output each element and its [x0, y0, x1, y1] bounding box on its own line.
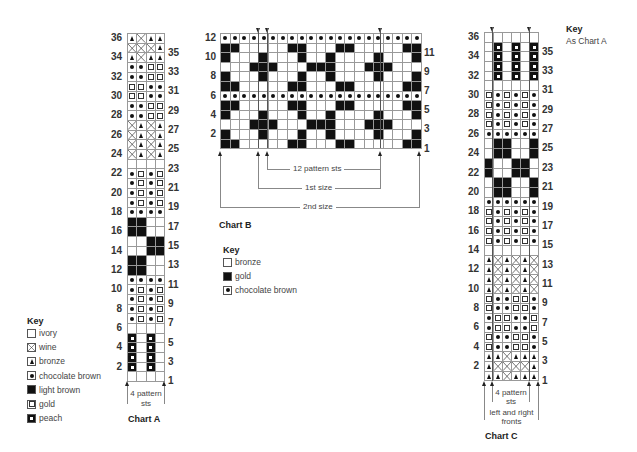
row-number: 35 [168, 48, 179, 58]
chart-cell [374, 120, 384, 130]
chart-cell [365, 34, 375, 44]
key-item-gold: gold [27, 399, 55, 409]
row-number: 14 [465, 245, 479, 255]
chart-cell [128, 305, 137, 315]
row-number: 24 [108, 149, 122, 159]
chart-cell [156, 169, 165, 179]
chart-cell [307, 44, 317, 54]
row-number: 34 [465, 51, 479, 61]
chart-cell [128, 237, 137, 247]
chart-cell [240, 53, 250, 63]
row-number: 7 [542, 318, 548, 328]
triangle-icon [523, 374, 527, 379]
chart-cell [530, 91, 539, 101]
chart-cell [156, 334, 165, 344]
cross-icon [494, 265, 502, 274]
chart-cell [336, 82, 346, 92]
cross-icon [530, 275, 538, 284]
chart-cell [503, 343, 512, 353]
chart-cell [326, 92, 336, 102]
chart-cell [317, 34, 327, 44]
cross-icon [530, 285, 538, 294]
chart-cell [128, 131, 137, 141]
chart-cell [336, 140, 346, 150]
chart-cell [530, 188, 539, 198]
row-number: 16 [465, 226, 479, 236]
chart-cell [393, 140, 403, 150]
chart-cell [393, 120, 403, 130]
chart-cell [503, 43, 512, 53]
chart-cell [530, 294, 539, 304]
dot-icon [532, 210, 536, 214]
triangle-icon [505, 257, 509, 262]
dot-icon [149, 181, 153, 185]
cross-icon [128, 44, 136, 53]
chart-cell [494, 314, 503, 324]
chart-cell [345, 140, 355, 150]
dot-icon [130, 297, 134, 301]
chart-cell [147, 285, 156, 295]
small-square-icon [148, 74, 154, 80]
chart-cell [530, 159, 539, 169]
chart-cell [269, 44, 279, 54]
dot-icon [523, 326, 527, 330]
chart-cell [298, 130, 308, 140]
chart-cell [128, 276, 137, 286]
dot-icon [496, 345, 500, 349]
triangle-icon [487, 287, 491, 292]
row-number: 24 [465, 148, 479, 158]
row-number: 17 [168, 222, 179, 232]
chart-cell [530, 314, 539, 324]
row-number: 9 [542, 298, 548, 308]
small-square-icon [157, 171, 163, 177]
chart-cell [231, 130, 241, 140]
small-square-icon [522, 334, 528, 340]
chart-cell [221, 82, 231, 92]
peach-square-icon [513, 73, 520, 80]
dot-icon [158, 210, 162, 214]
row-number: 4 [465, 342, 479, 352]
chart-cell [512, 81, 521, 91]
chart-cell [156, 266, 165, 276]
key-item-ivory: ivory [27, 328, 57, 338]
key-swatch-icon [27, 329, 36, 338]
cross-icon [530, 265, 538, 274]
chart-cell [307, 101, 317, 111]
chart-cell [393, 72, 403, 82]
chart-cell [240, 101, 250, 111]
chart-cell [403, 44, 413, 54]
chart-cell [137, 314, 146, 324]
chart-cell [336, 44, 346, 54]
chart-cell [147, 247, 156, 257]
chart-cell [156, 305, 165, 315]
chart-cell [240, 130, 250, 140]
peach-square-icon [495, 53, 502, 60]
chart-cell [326, 72, 336, 82]
chart-cell [530, 265, 539, 275]
chart-cell [156, 111, 165, 121]
chart-cell [393, 111, 403, 121]
chart-cell [221, 111, 231, 121]
dot-icon [329, 94, 333, 98]
chart-cell [503, 217, 512, 227]
row-number: 12 [465, 264, 479, 274]
peach-square-icon [531, 44, 538, 51]
chart-cell [530, 110, 539, 120]
chart-cell [530, 343, 539, 353]
dot-icon [242, 94, 246, 98]
chart-cell [298, 82, 308, 92]
chart-cell [512, 198, 521, 208]
row-number: 26 [465, 129, 479, 139]
small-square-icon [504, 209, 510, 215]
row-number: 34 [108, 52, 122, 62]
row-number: 31 [168, 86, 179, 96]
row-number: 1 [168, 376, 174, 386]
chart-cell [494, 372, 503, 382]
cross-icon [494, 256, 502, 265]
chart-cell [530, 256, 539, 266]
dot-icon [523, 132, 527, 136]
chart-cell [494, 362, 503, 372]
small-square-icon [522, 228, 528, 234]
small-square-icon [138, 200, 144, 206]
row-number: 7 [424, 86, 430, 96]
